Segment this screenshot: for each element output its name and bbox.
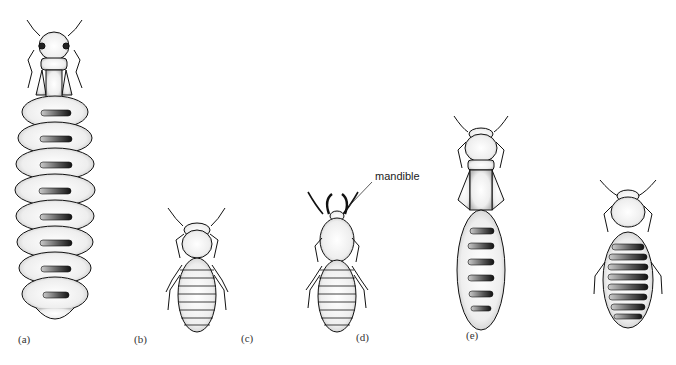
termite-reproductive-d [454,116,508,330]
termite-soldier-c [306,192,368,332]
panel-label-c: (c) [241,332,253,344]
termite-castes-figure: (a) (b) (c) (d) (e) mandible [0,0,676,365]
panel-label-b: (b) [134,333,147,345]
panel-label-a: (a) [18,333,30,345]
mandible-callout: mandible [375,170,420,182]
mandible-leader-line [349,182,372,206]
panel-label-e: (e) [466,329,478,341]
termite-queen-a [15,20,95,319]
termite-illustrations [0,0,676,365]
termite-worker-b [166,208,228,332]
panel-label-d: (d) [356,331,369,343]
